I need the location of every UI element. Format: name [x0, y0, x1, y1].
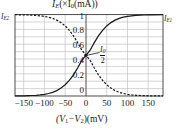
annotation-leader-line — [88, 53, 99, 56]
curve-IE1 — [15, 15, 163, 96]
x-tick-label: 150 — [133, 98, 163, 108]
plot-frame — [15, 15, 163, 96]
half-current-annotation: I02 — [100, 46, 105, 65]
y-axis-label: IE(×I0(mA)) — [52, 0, 98, 10]
x-axis-label: (V1−V2)(mV) — [56, 115, 107, 125]
y-tick-label: 0.4 — [64, 55, 84, 65]
y-tick-label: 0.6 — [64, 40, 84, 50]
crossing-point-marker — [84, 54, 87, 57]
y-tick-label: 0 — [64, 85, 84, 95]
y-tick-label: 0.8 — [64, 25, 84, 35]
curve-IE2 — [15, 15, 163, 96]
fraction-numerator: I0 — [100, 45, 105, 54]
curve-label-IE2: IE2 — [1, 13, 9, 21]
y-tick-label: 1 — [64, 11, 84, 21]
chart-figure: IE(×I0(mA)) IE2 IE1 I02 −150 −100 −50 0 … — [0, 0, 178, 133]
fraction-denominator: 2 — [101, 56, 105, 65]
curve-label-IE1: IE1 — [164, 15, 172, 23]
horizontal-gridlines — [15, 22, 163, 89]
y-tick-label: 0.2 — [64, 70, 84, 80]
